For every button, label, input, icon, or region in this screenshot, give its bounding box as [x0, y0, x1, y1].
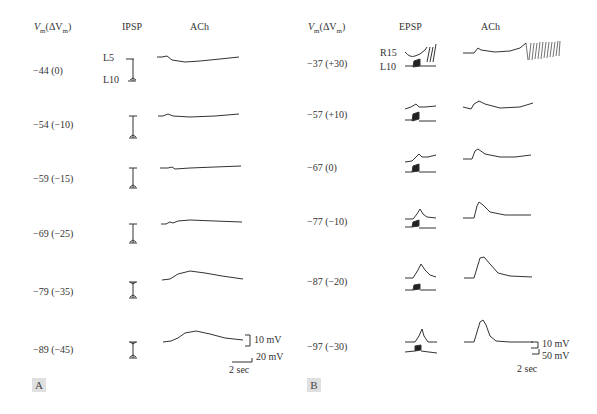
- panel-b-scale-bars: [531, 342, 539, 354]
- panel-a-scale-v1: 10 mV: [254, 334, 282, 345]
- panel-a-ipsp-traces: [126, 59, 137, 358]
- panel-b-tag: B: [307, 378, 321, 392]
- panel-b-epsp-traces: [405, 44, 437, 353]
- panel-a-tag: A: [32, 378, 46, 392]
- panel-b-scale-v1: 10 mV: [542, 338, 570, 349]
- recording-traces: [0, 0, 597, 414]
- panel-a-ach-traces: [157, 56, 243, 342]
- panel-a-scale-t: 2 sec: [229, 364, 249, 375]
- panel-b-ach-traces: [463, 41, 560, 342]
- panel-b-scale-t: 2 sec: [517, 363, 537, 374]
- panel-b-scale-v2: 50 mV: [542, 350, 570, 361]
- panel-a-scale-v2: 20 mV: [256, 351, 284, 362]
